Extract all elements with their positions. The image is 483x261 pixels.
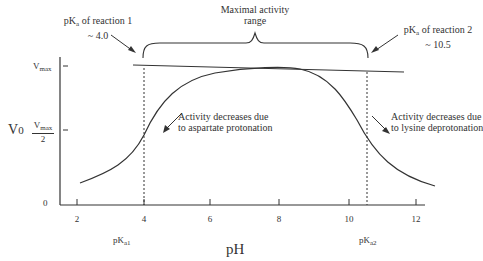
aspartate-line2: to aspartate protonation	[178, 122, 272, 133]
maximal-activity-line1: Maximal activity	[205, 4, 305, 15]
y-tick-label-zero: 0	[43, 198, 48, 209]
y-tick-label-vmax: Vmax	[33, 61, 52, 75]
pka1-axis-label: pKa1	[113, 235, 131, 249]
lysine-line2: to lysine deprotonation	[391, 122, 483, 133]
x-tick-label-6: 6	[204, 214, 216, 225]
aspartate-annotation: Activity decreases due to aspartate prot…	[178, 111, 272, 133]
pka-reaction2-label: pKa of reaction 2 ~ 10.5	[398, 24, 478, 50]
pka1-main: pK	[64, 15, 76, 26]
maximal-activity-line2: range	[205, 15, 305, 26]
vmax-half-den: 2	[32, 134, 54, 144]
pka2-main: pK	[404, 24, 416, 35]
x-ticks	[77, 199, 416, 205]
vmax-half-num-sub: max	[40, 124, 52, 132]
pka1-value: ~ 4.0	[58, 30, 138, 41]
lysine-annotation: Activity decreases due to lysine deproto…	[391, 111, 483, 133]
pka-reaction1-label: pKa of reaction 1 ~ 4.0	[58, 15, 138, 41]
pka2-axis-main: pK	[359, 235, 370, 245]
vmax-sub: max	[40, 65, 52, 73]
pka2-axis-sub: a2	[370, 239, 377, 247]
y-axis-label: V0	[8, 122, 24, 138]
y-tick-label-vmax-half: Vmax 2	[32, 120, 54, 144]
pka2-rest: of reaction 2	[419, 24, 472, 35]
x-tick-label-2: 2	[71, 214, 83, 225]
y-axis-label-sub: 0	[18, 124, 24, 136]
x-tick-label-8: 8	[273, 214, 285, 225]
vmax-reference-line	[133, 65, 404, 72]
maximal-activity-label: Maximal activity range	[205, 4, 305, 26]
x-tick-label-12: 12	[408, 214, 424, 225]
lysine-line1: Activity decreases due	[391, 111, 483, 122]
arrow-pka2	[371, 35, 398, 53]
pka1-rest: of reaction 1	[79, 15, 132, 26]
x-tick-label-4: 4	[138, 214, 150, 225]
pka2-axis-label: pKa2	[359, 235, 377, 249]
arrow-lysine	[372, 116, 390, 134]
maximal-activity-brace	[143, 33, 368, 58]
x-tick-label-10: 10	[341, 214, 357, 225]
pka1-axis-main: pK	[113, 235, 124, 245]
aspartate-line1: Activity decreases due	[178, 111, 272, 122]
pka1-axis-sub: a1	[124, 239, 131, 247]
y-axis-label-main: V	[8, 122, 18, 137]
pka2-value: ~ 10.5	[398, 39, 478, 50]
x-axis-label: pH	[226, 241, 244, 257]
